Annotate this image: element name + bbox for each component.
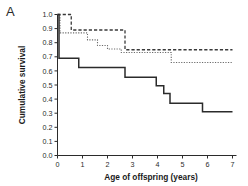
svg-text:5: 5 xyxy=(181,160,185,169)
x-axis-title: Age of offspring (years) xyxy=(104,172,198,182)
svg-text:0: 0 xyxy=(56,160,60,169)
svg-text:3: 3 xyxy=(131,160,135,169)
svg-text:6: 6 xyxy=(206,160,210,169)
svg-text:0.2: 0.2 xyxy=(43,123,53,132)
svg-text:1: 1 xyxy=(81,160,85,169)
svg-text:0.6: 0.6 xyxy=(43,67,53,76)
series-solid-curve xyxy=(58,15,233,112)
figure-panel: A 0.00.10.20.30.40.50.60.70.80.91.0 0123… xyxy=(0,0,248,186)
y-axis-title: Cumulative survival xyxy=(17,46,27,124)
svg-text:0.1: 0.1 xyxy=(43,137,53,146)
data-series-group xyxy=(58,15,233,112)
svg-text:0.4: 0.4 xyxy=(43,95,53,104)
svg-text:7: 7 xyxy=(231,160,235,169)
svg-text:0.5: 0.5 xyxy=(43,81,53,90)
x-axis-tick-labels: 01234567 xyxy=(56,160,235,169)
survival-chart: 0.00.10.20.30.40.50.60.70.80.91.0 012345… xyxy=(0,0,248,186)
y-axis-tick-labels: 0.00.10.20.30.40.50.60.70.80.91.0 xyxy=(43,10,53,160)
svg-text:2: 2 xyxy=(106,160,110,169)
svg-text:4: 4 xyxy=(156,160,160,169)
series-dotted-curve xyxy=(58,15,233,63)
svg-text:0.9: 0.9 xyxy=(43,24,53,33)
series-dashed-curve xyxy=(58,15,233,50)
svg-text:0.0: 0.0 xyxy=(43,151,53,160)
svg-text:1.0: 1.0 xyxy=(43,10,53,19)
svg-text:0.7: 0.7 xyxy=(43,52,53,61)
svg-text:0.8: 0.8 xyxy=(43,38,53,47)
svg-text:0.3: 0.3 xyxy=(43,109,53,118)
